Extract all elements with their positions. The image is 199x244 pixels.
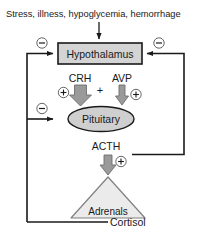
acth-feedback-right-path	[132, 54, 184, 155]
avp-label: AVP	[112, 72, 132, 84]
minus-sign-hypothalamus-left	[37, 38, 47, 48]
plus-operator-between-hormones: +	[97, 84, 103, 96]
hypothalamus-label: Hypothalamus	[66, 48, 133, 60]
crh-block-arrow	[70, 85, 92, 106]
crh-label: CRH	[69, 72, 92, 84]
plus-sign-crh	[58, 87, 68, 97]
pituitary-label: Pituitary	[82, 113, 121, 125]
pituitary-node: Pituitary	[68, 107, 134, 132]
cortisol-label: Cortisol	[110, 216, 146, 228]
minus-sign-pituitary-left	[37, 103, 47, 113]
hypothalamus-node: Hypothalamus	[58, 43, 142, 64]
hpa-axis-svg: Stress, illness, hypoglycemia, hemorrhag…	[0, 0, 199, 244]
adrenals-node: Adrenals	[71, 177, 145, 218]
acth-block-arrow	[100, 155, 116, 175]
plus-sign-avp	[131, 89, 141, 99]
minus-sign-hypothalamus-right	[154, 38, 164, 48]
hpa-axis-diagram: Stress, illness, hypoglycemia, hemorrhag…	[0, 0, 199, 244]
avp-block-arrow	[116, 85, 129, 105]
plus-sign-acth	[116, 156, 126, 166]
acth-label: ACTH	[92, 140, 121, 152]
stimulus-label: Stress, illness, hypoglycemia, hemorrhag…	[6, 9, 181, 19]
